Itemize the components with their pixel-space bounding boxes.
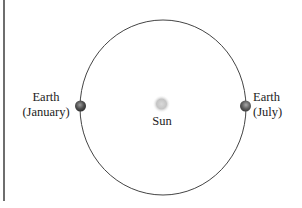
- earth-january-icon: [75, 101, 86, 112]
- sun-label: Sun: [144, 114, 180, 129]
- sun-icon: [153, 95, 171, 113]
- earth-july-icon: [240, 101, 251, 112]
- earth-july-label-line1: Earth: [253, 90, 293, 105]
- earth-july-label: Earth (July): [253, 90, 293, 120]
- earth-january-label-line1: Earth: [18, 90, 74, 105]
- earth-july-label-line2: (July): [253, 105, 293, 120]
- earth-january-label: Earth (January): [18, 90, 74, 120]
- earth-january-label-line2: (January): [18, 105, 74, 120]
